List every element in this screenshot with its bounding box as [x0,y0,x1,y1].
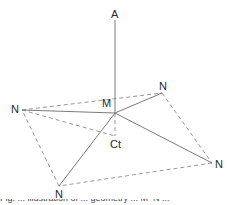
edge-n3-n4 [59,163,212,186]
caption-text: Fig. ... illustration of ... geometry ..… [0,199,231,203]
label-n-top-right: N [159,81,167,92]
edge-n4-n1 [22,110,59,186]
cropped-caption: Fig. ... illustration of ... geometry ..… [0,199,231,205]
edge-n1-ct [22,110,115,136]
label-a: A [111,9,118,20]
label-n-right: N [215,159,223,170]
bond-m-n2 [115,93,162,113]
bond-m-n1 [22,110,115,113]
diagram-canvas [0,0,231,205]
label-ct: Ct [110,139,121,150]
label-m: M [102,98,111,109]
label-n-left: N [11,104,19,115]
solid-bonds [22,20,212,186]
bond-m-n3 [115,113,212,163]
bond-m-n4 [59,113,115,186]
edge-n2-n3 [162,93,212,163]
